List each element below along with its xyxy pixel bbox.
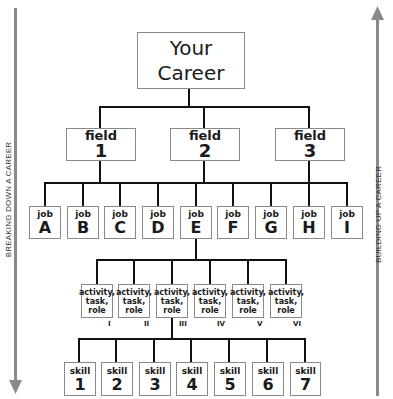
connector — [78, 338, 80, 362]
breaking-down-arrow — [14, 8, 17, 384]
connector — [203, 161, 205, 183]
skill-box: skill6 — [252, 362, 284, 396]
connector — [266, 338, 268, 362]
connector — [44, 182, 46, 206]
connector — [270, 182, 272, 206]
connector — [96, 259, 287, 261]
skill-box: skill5 — [214, 362, 246, 396]
connector — [195, 182, 197, 206]
job-box: jobH — [293, 206, 325, 239]
connector — [171, 259, 173, 284]
career-line1: Your — [170, 36, 213, 61]
activity-box: activity,task,role — [118, 284, 150, 318]
roman-numeral: IV — [217, 320, 225, 328]
activity-box: activity,task,role — [194, 284, 226, 318]
connector — [232, 182, 234, 206]
job-box: jobG — [255, 206, 287, 239]
connector — [153, 338, 155, 362]
connector — [115, 338, 117, 362]
career-line2: Career — [158, 61, 225, 86]
connector — [171, 318, 173, 340]
career-box: Your Career — [137, 32, 245, 89]
job-box: jobB — [67, 206, 99, 239]
skill-box: skill3 — [139, 362, 171, 396]
connector — [82, 182, 84, 206]
connector — [247, 259, 249, 284]
connector — [304, 338, 306, 362]
connector — [190, 338, 192, 362]
job-box: jobC — [104, 206, 136, 239]
job-box: jobE — [180, 206, 212, 239]
connector — [195, 239, 197, 261]
job-box: jobD — [142, 206, 174, 239]
connector — [308, 182, 310, 206]
job-box: jobA — [29, 206, 61, 239]
connector — [157, 182, 159, 206]
building-up-label: BUILDING UP A CAREER — [374, 160, 383, 270]
field-box: field2 — [170, 128, 240, 161]
career-diagram: BREAKING DOWN A CAREER BUILDING UP A CAR… — [0, 0, 393, 399]
activity-box: activity,task,role — [81, 284, 113, 318]
skill-box: skill2 — [101, 362, 133, 396]
connector — [285, 259, 287, 284]
skill-box: skill7 — [290, 362, 321, 396]
job-box: jobF — [217, 206, 249, 239]
arrow-up-icon — [371, 6, 384, 20]
activity-box: activity,task,role — [270, 284, 302, 318]
field-box: field3 — [275, 128, 345, 161]
connector — [308, 106, 310, 128]
field-box: field1 — [66, 128, 136, 161]
connector — [99, 161, 101, 183]
connector — [346, 182, 348, 206]
connector — [228, 338, 230, 362]
roman-numeral: V — [257, 320, 262, 328]
roman-numeral: I — [108, 320, 111, 328]
connector — [203, 106, 205, 128]
activity-box: activity,task,role — [232, 284, 264, 318]
roman-numeral: VI — [293, 320, 301, 328]
arrow-down-icon — [9, 380, 22, 394]
connector — [308, 161, 310, 183]
roman-numeral: II — [144, 320, 149, 328]
connector — [96, 259, 98, 284]
connector — [99, 106, 101, 128]
skill-box: skill1 — [64, 362, 96, 396]
activity-box: activity,task,role — [156, 284, 188, 318]
connector — [119, 182, 121, 206]
skill-box: skill4 — [176, 362, 208, 396]
job-box: jobI — [331, 206, 363, 239]
connector — [78, 338, 306, 340]
connector — [133, 259, 135, 284]
connector — [209, 259, 211, 284]
roman-numeral: III — [179, 320, 187, 328]
breaking-down-label: BREAKING DOWN A CAREER — [4, 140, 13, 260]
